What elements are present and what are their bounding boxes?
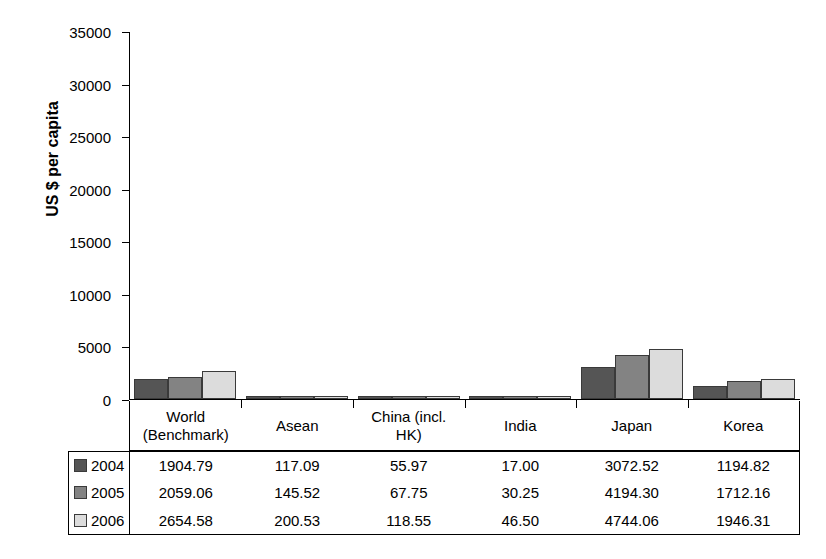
- bar: [392, 396, 426, 399]
- bar: [581, 367, 615, 399]
- table-cell: 4744.06: [576, 507, 688, 534]
- category-header-text: World(Benchmark): [143, 408, 229, 444]
- category-header-text: India: [504, 417, 537, 435]
- category-header: World(Benchmark): [130, 401, 242, 450]
- y-tick-label: 15000: [69, 234, 111, 251]
- y-tick: 30000: [122, 85, 129, 86]
- legend-label: 2004: [91, 457, 124, 474]
- table-cell: 145.52: [242, 479, 354, 506]
- bar-group: [353, 32, 465, 399]
- bar: [537, 396, 571, 399]
- y-tick-label: 0: [103, 392, 111, 409]
- bar: [426, 396, 460, 399]
- table-cell: 1712.16: [688, 479, 800, 506]
- table-cell: 3072.52: [576, 452, 688, 479]
- category-header: Korea: [688, 401, 800, 450]
- legend-swatch: [74, 514, 87, 527]
- table-cell: 2059.06: [130, 479, 242, 506]
- legend-cell: 2006: [69, 507, 130, 534]
- bar: [469, 396, 503, 399]
- bar: [358, 396, 392, 399]
- bar: [246, 396, 280, 399]
- y-tick: 15000: [122, 242, 129, 243]
- y-tick-label: 5000: [78, 339, 111, 356]
- y-tick: 20000: [122, 190, 129, 191]
- bar-group: [688, 32, 800, 399]
- table-cell: 46.50: [465, 507, 577, 534]
- y-axis-label: US $ per capita: [44, 44, 62, 274]
- table-cell: 1194.82: [688, 452, 800, 479]
- bar: [649, 349, 683, 399]
- data-table: 20041904.79117.0955.9717.003072.521194.8…: [68, 451, 800, 535]
- category-header-text: China (incl.HK): [371, 408, 446, 444]
- table-row: 20041904.79117.0955.9717.003072.521194.8…: [69, 452, 799, 479]
- legend-label: 2005: [91, 484, 124, 501]
- bar: [727, 381, 761, 399]
- table-cell: 67.75: [353, 479, 465, 506]
- table-cell: 55.97: [353, 452, 465, 479]
- y-tick-label: 20000: [69, 181, 111, 198]
- value-cells: 2654.58200.53118.5546.504744.061946.31: [130, 507, 799, 534]
- y-tick: 5000: [122, 347, 129, 348]
- category-header: Japan: [576, 401, 688, 450]
- bar-group: [129, 32, 241, 399]
- value-cells: 1904.79117.0955.9717.003072.521194.82: [130, 452, 799, 479]
- chart-page: US $ per capita 350003000025000200001500…: [0, 0, 826, 559]
- bar: [693, 386, 727, 399]
- table-row: 20052059.06145.5267.7530.254194.301712.1…: [69, 479, 799, 506]
- category-header: Asean: [242, 401, 354, 450]
- y-tick: 25000: [122, 137, 129, 138]
- bar: [503, 396, 537, 399]
- y-tick: 0: [122, 400, 129, 401]
- legend-swatch: [74, 459, 87, 472]
- legend-cell: 2005: [69, 479, 130, 506]
- table-cell: 2654.58: [130, 507, 242, 534]
- bar-group: [465, 32, 577, 399]
- y-tick-label: 25000: [69, 129, 111, 146]
- bar: [615, 355, 649, 399]
- bar-group: [241, 32, 353, 399]
- category-header: India: [465, 401, 577, 450]
- y-tick: 10000: [122, 295, 129, 296]
- y-tick: 35000: [122, 32, 129, 33]
- bar: [168, 377, 202, 399]
- bar: [314, 396, 348, 399]
- bar: [761, 379, 795, 399]
- legend-swatch: [74, 486, 87, 499]
- y-tick-label: 30000: [69, 76, 111, 93]
- legend-label: 2006: [91, 512, 124, 529]
- y-tick-label: 10000: [69, 286, 111, 303]
- table-cell: 1946.31: [688, 507, 800, 534]
- table-cell: 4194.30: [576, 479, 688, 506]
- category-header-text: Japan: [611, 417, 652, 435]
- table-cell: 30.25: [465, 479, 577, 506]
- table-row: 20062654.58200.53118.5546.504744.061946.…: [69, 507, 799, 534]
- legend-cell: 2004: [69, 452, 130, 479]
- bar-group: [576, 32, 688, 399]
- plot-area: 35000300002500020000150001000050000: [129, 32, 800, 400]
- table-cell: 1904.79: [130, 452, 242, 479]
- table-cell: 117.09: [242, 452, 354, 479]
- table-cell: 118.55: [353, 507, 465, 534]
- category-header: China (incl.HK): [353, 401, 465, 450]
- bar: [134, 379, 168, 399]
- value-cells: 2059.06145.5267.7530.254194.301712.16: [130, 479, 799, 506]
- table-cell: 200.53: [242, 507, 354, 534]
- category-header-text: Korea: [723, 417, 763, 435]
- table-cell: 17.00: [465, 452, 577, 479]
- bar: [280, 396, 314, 399]
- category-header-row: World(Benchmark)AseanChina (incl.HK)Indi…: [129, 401, 800, 451]
- y-tick-label: 35000: [69, 24, 111, 41]
- bar: [202, 371, 236, 399]
- category-header-text: Asean: [276, 417, 319, 435]
